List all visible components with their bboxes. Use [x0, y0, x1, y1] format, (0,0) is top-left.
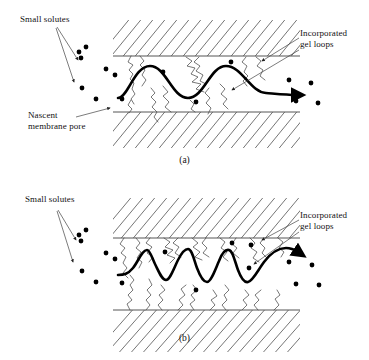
- panel-a-drawing: [0, 0, 369, 180]
- label-nascent-membrane-pore-a: Nascentmembrane pore: [28, 110, 86, 132]
- label-gel-loops-a-line1: Incorporated: [300, 28, 347, 38]
- panel-b: Small solutes Incorporatedgel loops (b): [0, 180, 369, 360]
- label-incorporated-gel-loops-b: Incorporatedgel loops: [300, 210, 347, 232]
- membrane-hatch-top: [94, 194, 326, 242]
- leader-lines: [57, 210, 299, 264]
- label-small-solutes-b: Small solutes: [25, 194, 75, 205]
- label-nascent-line1: Nascent: [28, 110, 58, 120]
- caption-panel-b: (b): [0, 333, 369, 343]
- label-small-solutes-a: Small solutes: [20, 14, 70, 25]
- gel-loops-group-top: [120, 238, 284, 278]
- leader-lines: [56, 27, 299, 117]
- panel-a: Small solutes Nascentmembrane pore Incor…: [0, 0, 369, 180]
- label-gel-loops-a-line2: gel loops: [300, 39, 334, 49]
- label-gel-loops-b-line1: Incorporated: [300, 210, 347, 220]
- solute-particles: [77, 228, 322, 293]
- label-incorporated-gel-loops-a: Incorporatedgel loops: [300, 28, 347, 50]
- membrane-hatch-top: [96, 16, 324, 60]
- membrane-hatch-bottom: [96, 108, 324, 152]
- caption-panel-a: (a): [0, 155, 369, 165]
- figure-root: Small solutes Nascentmembrane pore Incor…: [0, 0, 369, 360]
- solute-flow-path: [118, 248, 298, 282]
- label-gel-loops-b-line2: gel loops: [300, 221, 334, 231]
- membrane-hatch-bottom: [92, 306, 328, 356]
- label-nascent-line2: membrane pore: [28, 121, 86, 131]
